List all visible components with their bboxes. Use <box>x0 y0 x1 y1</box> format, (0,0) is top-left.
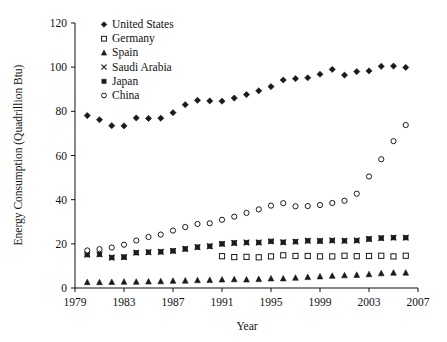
data-point <box>219 254 224 259</box>
legend-marker-open-square <box>102 36 107 41</box>
data-point <box>158 249 163 254</box>
data-point <box>194 97 200 103</box>
data-point <box>317 254 322 259</box>
data-point <box>391 254 396 259</box>
series-spain <box>84 270 408 285</box>
data-point <box>354 254 359 259</box>
x-tick-label: 1983 <box>113 296 136 308</box>
data-point <box>207 277 213 283</box>
x-tick-label: 1995 <box>260 296 283 308</box>
data-point <box>256 240 261 245</box>
data-point <box>268 84 274 90</box>
data-point <box>342 253 347 258</box>
data-point <box>293 239 298 244</box>
data-point <box>170 278 176 284</box>
data-point <box>366 271 372 277</box>
series-germany <box>219 253 408 260</box>
data-point <box>109 279 115 285</box>
y-tick-label: 40 <box>56 194 68 206</box>
data-point <box>220 242 225 247</box>
data-point <box>305 274 311 280</box>
legend-label: China <box>112 89 139 101</box>
data-point <box>231 95 237 101</box>
data-point <box>293 253 298 258</box>
legend-label: Saudi Arabia <box>112 61 172 73</box>
data-point <box>341 72 347 78</box>
x-tick-label: 2003 <box>358 296 381 308</box>
x-tick-label: 2007 <box>407 296 430 308</box>
data-point <box>109 123 115 129</box>
data-point <box>84 112 90 118</box>
data-point <box>256 276 262 282</box>
data-point <box>219 277 225 283</box>
data-point <box>342 272 348 278</box>
data-point <box>305 253 310 258</box>
data-point <box>85 248 90 253</box>
x-tick-label: 1991 <box>211 296 234 308</box>
data-point <box>391 139 396 144</box>
chart-svg: 020406080100120 197919831987199119951999… <box>0 0 447 342</box>
data-point <box>330 254 335 259</box>
data-point <box>243 91 249 97</box>
data-point <box>390 63 396 69</box>
data-point <box>329 273 335 279</box>
data-point <box>219 217 224 222</box>
data-point <box>122 255 127 260</box>
data-point <box>379 236 384 241</box>
data-point <box>195 277 201 283</box>
data-point <box>367 237 372 242</box>
data-point <box>244 210 249 215</box>
data-point <box>391 235 396 240</box>
legend-marker-filled-square <box>102 79 106 83</box>
data-point <box>195 221 200 226</box>
data-point <box>354 68 360 74</box>
data-point <box>317 202 322 207</box>
data-point <box>171 249 176 254</box>
data-point <box>305 75 311 81</box>
data-point <box>268 203 273 208</box>
data-point <box>133 115 139 121</box>
data-point <box>158 115 164 121</box>
data-point <box>244 254 249 259</box>
x-axis-title: Year <box>236 320 257 332</box>
data-point <box>354 272 360 278</box>
legend-label: Spain <box>112 46 138 59</box>
data-point <box>305 203 310 208</box>
data-point <box>281 253 286 258</box>
legend-label: Germany <box>112 32 155 45</box>
data-point <box>232 214 237 219</box>
data-point <box>170 228 175 233</box>
data-point <box>182 278 188 284</box>
data-point <box>97 279 103 285</box>
data-point <box>354 191 359 196</box>
legend-label: United States <box>112 18 174 30</box>
data-point <box>342 198 347 203</box>
data-point <box>403 253 408 258</box>
data-point <box>134 238 139 243</box>
legend-marker-filled-diamond <box>101 22 107 28</box>
data-point <box>207 244 212 249</box>
data-point <box>145 115 151 121</box>
data-point <box>293 204 298 209</box>
data-point <box>182 102 188 108</box>
data-point <box>121 279 127 285</box>
data-point <box>158 232 163 237</box>
data-point <box>403 64 409 70</box>
data-point <box>244 277 250 283</box>
data-point <box>84 279 90 285</box>
y-tick-label: 80 <box>56 105 68 117</box>
series-china <box>85 122 409 253</box>
data-point <box>281 240 286 245</box>
x-tick-label: 1979 <box>64 296 87 308</box>
data-point <box>170 110 176 116</box>
data-point <box>280 275 286 281</box>
x-tick-label: 1987 <box>162 296 185 308</box>
data-point <box>330 238 335 243</box>
data-point <box>318 239 323 244</box>
data-point <box>121 242 126 247</box>
data-point <box>97 247 102 252</box>
data-point <box>379 157 384 162</box>
y-tick-label: 20 <box>56 238 68 250</box>
data-point <box>354 238 359 243</box>
data-point <box>183 247 188 252</box>
